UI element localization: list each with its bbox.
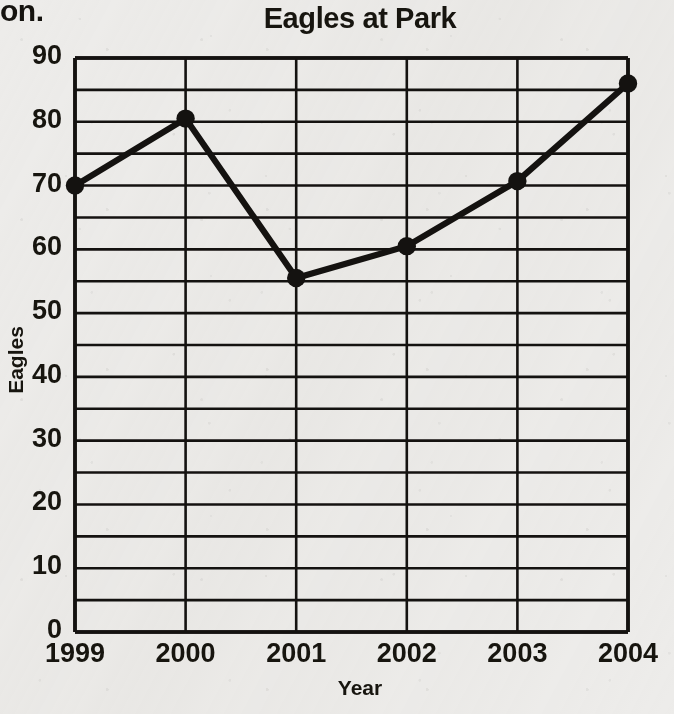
y-tick-label-80: 80: [0, 104, 62, 135]
x-tick-label-2004: 2004: [578, 638, 674, 669]
x-tick-label-2003: 2003: [467, 638, 567, 669]
line-chart-canvas: [0, 0, 674, 714]
cutoff-text-fragment: on.: [0, 0, 44, 28]
x-tick-label-2000: 2000: [136, 638, 236, 669]
x-tick-label-1999: 1999: [25, 638, 125, 669]
y-tick-label-20: 20: [0, 486, 62, 517]
y-tick-label-60: 60: [0, 231, 62, 262]
chart-title: Eagles at Park: [180, 2, 540, 35]
y-tick-label-90: 90: [0, 40, 62, 71]
y-tick-label-10: 10: [0, 550, 62, 581]
y-axis-title: Eagles: [4, 315, 28, 405]
x-axis-title: Year: [180, 676, 540, 700]
eagles-data-markers: [66, 74, 637, 287]
x-tick-label-2001: 2001: [246, 638, 346, 669]
horizontal-gridlines: [75, 58, 628, 632]
x-tick-label-2002: 2002: [357, 638, 457, 669]
y-tick-label-70: 70: [0, 168, 62, 199]
y-tick-label-30: 30: [0, 423, 62, 454]
